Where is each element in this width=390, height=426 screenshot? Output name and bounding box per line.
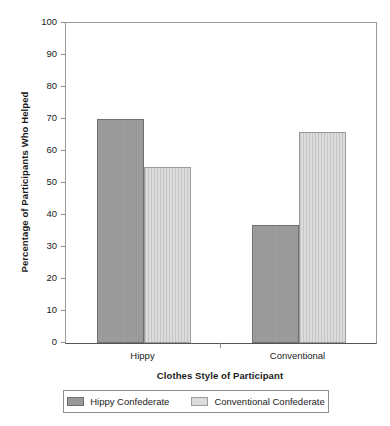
- legend-swatch-icon: [191, 397, 208, 406]
- legend-swatch-icon: [67, 397, 84, 406]
- y-axis-tick-label: 70: [27, 113, 57, 123]
- y-axis-tick-label: 20: [27, 273, 57, 283]
- y-axis-tick-label: 10: [27, 305, 57, 315]
- y-axis-tick-label: 90: [27, 49, 57, 59]
- bar: [299, 132, 346, 343]
- y-axis-tick-label: 100: [27, 17, 57, 27]
- y-axis-tick-label: 50: [27, 177, 57, 187]
- bar: [97, 119, 144, 343]
- plot-area: [65, 22, 377, 344]
- y-axis-tick-label: 0: [27, 337, 57, 347]
- chart-legend: Hippy Confederate Conventional Confedera…: [63, 390, 329, 413]
- legend-item-label: Hippy Confederate: [90, 396, 169, 407]
- x-axis-title: Clothes Style of Participant: [65, 370, 375, 381]
- bar-chart-figure: Percentage of Participants Who Helped 01…: [0, 0, 390, 426]
- x-axis-tick-mark: [220, 343, 221, 348]
- legend-item-hippy-confederate: Hippy Confederate: [67, 396, 169, 407]
- y-axis-tick-label: 40: [27, 209, 57, 219]
- x-axis-tick-label: Conventional: [220, 350, 375, 362]
- y-axis-tick-label: 80: [27, 81, 57, 91]
- bars-layer: [66, 23, 376, 343]
- legend-item-label: Conventional Confederate: [214, 396, 324, 407]
- bar: [144, 167, 191, 343]
- legend-item-conventional-confederate: Conventional Confederate: [191, 396, 324, 407]
- x-axis-tick-label: Hippy: [65, 350, 220, 362]
- y-axis-tick-label: 30: [27, 241, 57, 251]
- bar: [252, 225, 299, 343]
- y-axis-tick-label: 60: [27, 145, 57, 155]
